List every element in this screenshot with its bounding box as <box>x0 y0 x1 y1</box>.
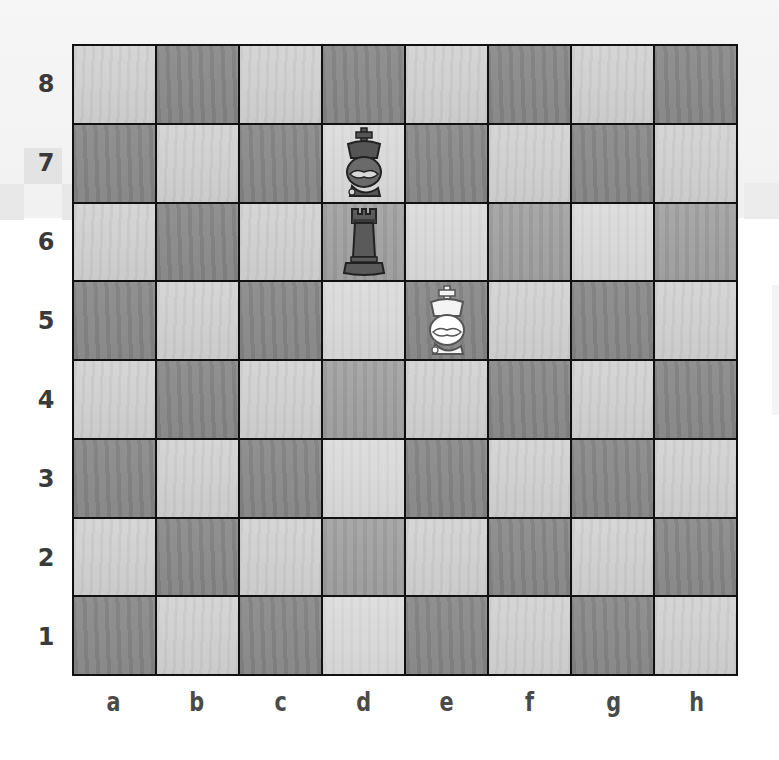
file-label: b <box>164 682 231 722</box>
square-c6[interactable] <box>240 204 321 281</box>
square-b2[interactable] <box>157 519 238 596</box>
square-f6[interactable] <box>489 204 570 281</box>
file-label: h <box>663 682 730 722</box>
square-c2[interactable] <box>240 519 321 596</box>
file-label: d <box>330 682 397 722</box>
square-e1[interactable] <box>406 597 487 674</box>
square-g1[interactable] <box>572 597 653 674</box>
white-king-icon[interactable] <box>417 284 477 358</box>
chess-board[interactable] <box>72 44 738 676</box>
square-d4[interactable] <box>323 361 404 438</box>
rank-label: 7 <box>28 123 64 202</box>
square-e7[interactable] <box>406 125 487 202</box>
square-a4[interactable] <box>74 361 155 438</box>
square-f2[interactable] <box>489 519 570 596</box>
black-king-icon[interactable] <box>334 126 394 200</box>
square-b6[interactable] <box>157 204 238 281</box>
square-c4[interactable] <box>240 361 321 438</box>
square-e8[interactable] <box>406 46 487 123</box>
square-d3[interactable] <box>323 440 404 517</box>
square-f7[interactable] <box>489 125 570 202</box>
square-f4[interactable] <box>489 361 570 438</box>
square-g3[interactable] <box>572 440 653 517</box>
square-c3[interactable] <box>240 440 321 517</box>
file-labels: a b c d e f g h <box>72 682 738 722</box>
square-c8[interactable] <box>240 46 321 123</box>
square-e2[interactable] <box>406 519 487 596</box>
square-b7[interactable] <box>157 125 238 202</box>
rank-label: 8 <box>28 44 64 123</box>
square-h6[interactable] <box>655 204 736 281</box>
square-b3[interactable] <box>157 440 238 517</box>
square-a3[interactable] <box>74 440 155 517</box>
rank-label: 3 <box>28 439 64 518</box>
rank-label: 6 <box>28 202 64 281</box>
square-h1[interactable] <box>655 597 736 674</box>
rank-label: 2 <box>28 518 64 597</box>
square-a7[interactable] <box>74 125 155 202</box>
square-g7[interactable] <box>572 125 653 202</box>
square-g6[interactable] <box>572 204 653 281</box>
square-g4[interactable] <box>572 361 653 438</box>
rank-label: 4 <box>28 360 64 439</box>
background-decor-strip <box>772 285 779 415</box>
square-f8[interactable] <box>489 46 570 123</box>
square-h8[interactable] <box>655 46 736 123</box>
square-d2[interactable] <box>323 519 404 596</box>
square-a1[interactable] <box>74 597 155 674</box>
square-e6[interactable] <box>406 204 487 281</box>
file-label: a <box>80 682 147 722</box>
square-b4[interactable] <box>157 361 238 438</box>
black-rook-icon[interactable] <box>334 205 394 279</box>
square-e5[interactable] <box>406 282 487 359</box>
file-label: c <box>247 682 314 722</box>
square-c5[interactable] <box>240 282 321 359</box>
rank-label: 1 <box>28 597 64 676</box>
file-label: g <box>580 682 647 722</box>
background-decor-tile <box>0 184 24 220</box>
file-label: e <box>413 682 480 722</box>
square-g5[interactable] <box>572 282 653 359</box>
square-g8[interactable] <box>572 46 653 123</box>
square-a6[interactable] <box>74 204 155 281</box>
square-c7[interactable] <box>240 125 321 202</box>
rank-labels: 8 7 6 5 4 3 2 1 <box>28 44 64 676</box>
square-h7[interactable] <box>655 125 736 202</box>
file-label: f <box>497 682 564 722</box>
rank-label: 5 <box>28 281 64 360</box>
square-d5[interactable] <box>323 282 404 359</box>
square-d1[interactable] <box>323 597 404 674</box>
square-a8[interactable] <box>74 46 155 123</box>
square-h5[interactable] <box>655 282 736 359</box>
square-b1[interactable] <box>157 597 238 674</box>
square-d7[interactable] <box>323 125 404 202</box>
square-h4[interactable] <box>655 361 736 438</box>
square-h2[interactable] <box>655 519 736 596</box>
square-b8[interactable] <box>157 46 238 123</box>
square-d6[interactable] <box>323 204 404 281</box>
square-c1[interactable] <box>240 597 321 674</box>
square-e4[interactable] <box>406 361 487 438</box>
square-f1[interactable] <box>489 597 570 674</box>
background-decor-tile <box>744 183 779 219</box>
square-h3[interactable] <box>655 440 736 517</box>
square-a5[interactable] <box>74 282 155 359</box>
square-f5[interactable] <box>489 282 570 359</box>
square-d8[interactable] <box>323 46 404 123</box>
square-b5[interactable] <box>157 282 238 359</box>
square-a2[interactable] <box>74 519 155 596</box>
square-e3[interactable] <box>406 440 487 517</box>
square-f3[interactable] <box>489 440 570 517</box>
square-g2[interactable] <box>572 519 653 596</box>
